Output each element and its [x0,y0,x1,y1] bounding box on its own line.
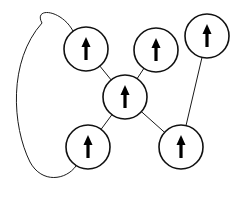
node-d [103,75,147,119]
node-b [134,28,178,72]
spin-network-diagram [0,0,240,197]
node-c [185,14,229,58]
node-f [159,125,203,169]
node-e [66,125,110,169]
nodes-group [64,14,229,169]
node-a [64,27,108,71]
